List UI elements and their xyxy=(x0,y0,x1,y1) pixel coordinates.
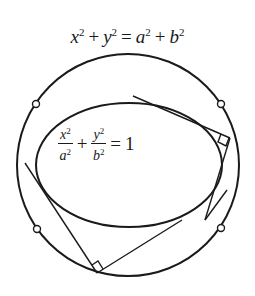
var-y: y xyxy=(103,26,111,47)
point-marker xyxy=(218,101,225,108)
director-circle xyxy=(17,54,239,276)
fraction-y: y2 b2 xyxy=(91,124,106,163)
exponent: 2 xyxy=(145,26,151,38)
exponent: 2 xyxy=(100,126,105,136)
plus-sign: + xyxy=(73,133,92,155)
plus-sign: + xyxy=(84,26,103,47)
ellipse xyxy=(36,103,222,227)
ellipse-equation: x2 a2 + y2 b2 = 1 xyxy=(58,124,134,163)
circle-equation: x2+y2=a2+b2 xyxy=(0,26,255,48)
tangent-line-bottom xyxy=(97,220,182,273)
var-a: a xyxy=(60,148,67,163)
point-marker xyxy=(218,225,225,232)
tangent-line-left xyxy=(25,163,97,273)
exponent: 2 xyxy=(67,147,72,157)
tangent-line-right xyxy=(205,138,230,220)
equals-sign: = xyxy=(106,133,125,155)
tangent-line-short xyxy=(205,190,227,220)
plus-sign: + xyxy=(151,26,170,47)
exponent: 2 xyxy=(66,126,71,136)
var-b: b xyxy=(170,26,180,47)
exponent: 2 xyxy=(179,26,185,38)
exponent: 2 xyxy=(100,147,105,157)
var-a: a xyxy=(136,26,146,47)
tangent-line-top xyxy=(133,96,230,138)
fraction-x: x2 a2 xyxy=(58,124,73,163)
point-marker xyxy=(34,226,41,233)
var-b: b xyxy=(93,148,100,163)
point-marker xyxy=(33,101,40,108)
rhs-value: 1 xyxy=(125,133,135,155)
equals-sign: = xyxy=(117,26,136,47)
var-x: x xyxy=(70,26,78,47)
